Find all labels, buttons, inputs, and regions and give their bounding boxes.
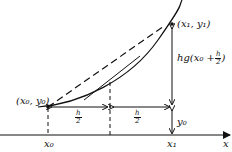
point-midpoint: [109, 106, 111, 108]
fraction-denominator: 2: [75, 118, 82, 125]
label-x0: x₀: [44, 139, 54, 149]
label-p1: (x₁, y₁): [177, 19, 210, 29]
secant-line: [48, 26, 164, 107]
point-x1-y1: [170, 22, 174, 26]
label-y0: y₀: [177, 117, 187, 127]
height-label-prefix: hg(x₀ +: [177, 53, 215, 63]
midpoint-method-diagram: (x₀, y₀) (x₁, y₁) x₀ x₁ x y₀ hg(x₀ + h 2…: [0, 0, 232, 152]
label-half-step-left: h 2: [75, 110, 82, 125]
height-label-suffix: ): [221, 53, 225, 63]
label-height: hg(x₀ + h 2 ): [177, 50, 225, 66]
label-half-step-right: h 2: [134, 110, 141, 125]
fraction-denominator: 2: [134, 118, 141, 125]
label-p0: (x₀, y₀): [16, 96, 49, 106]
label-x-axis: x: [223, 139, 229, 149]
label-x1: x₁: [167, 139, 177, 149]
